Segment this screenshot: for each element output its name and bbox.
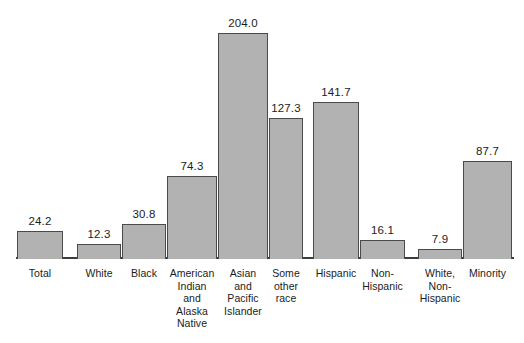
- category-label: Total: [17, 267, 63, 280]
- bar: [269, 118, 303, 259]
- bar: [77, 244, 121, 259]
- category-label: Non- Hispanic: [358, 267, 408, 292]
- bar-value-label: 204.0: [213, 17, 273, 30]
- bar-value-label: 30.8: [114, 208, 174, 221]
- bar: [122, 224, 166, 259]
- bar: [418, 249, 462, 259]
- category-label: American Indian and Alaska Native: [163, 267, 221, 330]
- bar-value-label: 127.3: [256, 102, 316, 115]
- bar: [360, 240, 405, 259]
- bar-value-label: 12.3: [69, 228, 129, 241]
- bar: [463, 161, 512, 259]
- bar-value-label: 74.3: [162, 160, 222, 173]
- bar: [17, 231, 63, 259]
- bar: [167, 176, 217, 259]
- bar-chart: 24.212.330.874.3204.0127.3141.716.17.987…: [0, 0, 524, 343]
- category-label: Some other race: [261, 267, 311, 305]
- bar-value-label: 16.1: [353, 224, 413, 237]
- category-label: Minority: [462, 267, 514, 280]
- category-label: White, Non- Hispanic: [414, 267, 466, 305]
- category-label: White: [77, 267, 121, 280]
- plot-area: 24.212.330.874.3204.0127.3141.716.17.987…: [0, 0, 524, 259]
- bar-value-label: 141.7: [306, 86, 366, 99]
- bar-value-label: 7.9: [410, 233, 470, 246]
- category-label: Hispanic: [310, 267, 362, 280]
- bar-value-label: 24.2: [10, 215, 70, 228]
- bar: [218, 33, 268, 259]
- bar-value-label: 87.7: [458, 145, 518, 158]
